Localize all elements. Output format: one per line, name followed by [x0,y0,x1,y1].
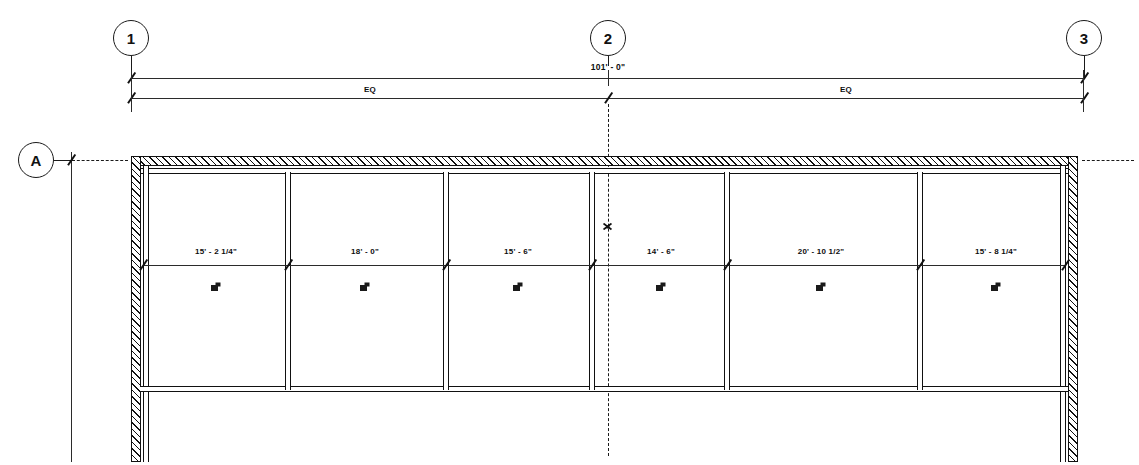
bay-5-dimension-text: 20' - 10 1/2" [798,247,845,256]
exterior-wall-top-liner [140,168,1068,174]
grid-bubble-3[interactable]: 3 [1066,20,1102,56]
room-tag-icon [211,278,222,288]
gridline-A-right [1082,160,1134,161]
grid-bubble-label: A [31,152,42,169]
interior-dimension-line [143,265,1065,266]
interior-wall-bottom [140,386,1068,392]
dim-extension-grid-3 [1083,70,1084,112]
room-tag-icon [991,278,1002,288]
exterior-wall-right-liner [1060,166,1066,462]
grid-bubble-label: 1 [127,30,135,47]
bay-4-dimension-text: 14' - 6" [647,247,675,256]
bay-3-dimension-text: 15' - 6" [504,247,532,256]
bay-2-dimension-text: 18' - 0" [351,247,379,256]
centerline-symbol-icon [603,218,614,227]
grid-A-extension-line [71,152,72,462]
grid-bubble-2[interactable]: 2 [590,20,626,56]
exterior-wall-right [1068,156,1078,462]
partition-wall-2 [443,172,449,390]
room-tag-icon [656,278,667,288]
partition-wall-3 [589,172,595,390]
grid-bubble-A[interactable]: A [18,142,54,178]
exterior-wall-left [131,156,141,462]
partition-wall-4 [724,172,730,390]
grid-bubble-label: 3 [1080,30,1088,47]
room-tag-icon [513,278,524,288]
grid-bubble-1[interactable]: 1 [113,20,149,56]
eq-label-left: EQ [364,85,376,94]
room-tag-icon [360,278,371,288]
partition-wall-5 [917,172,923,390]
bay-6-dimension-text: 15' - 8 1/4" [975,247,1017,256]
room-tag-icon [816,278,827,288]
eq-label-right: EQ [840,85,852,94]
exterior-wall-left-liner [143,166,149,462]
gridline-A-left [72,160,128,161]
dim-extension-grid-1 [131,70,132,112]
partition-wall-1 [285,172,291,390]
bay-1-dimension-text: 15' - 2 1/4" [195,247,237,256]
overall-dimension-text: 101' - 0" [591,62,625,72]
grid-bubble-label: 2 [604,30,612,47]
exterior-wall-top [131,156,1077,166]
overall-dim-center-mark [608,70,609,86]
drawing-sheet: 1 2 3 A 101' - 0" EQ EQ [0,0,1139,465]
